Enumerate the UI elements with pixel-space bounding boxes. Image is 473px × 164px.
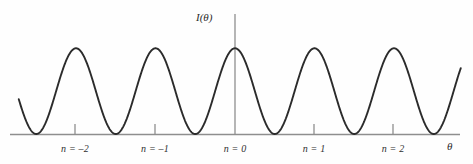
diffraction-intensity-figure: I(θ) θ n = –2 n = –1 n = 0 n = 1 n = 2 xyxy=(0,0,473,164)
intensity-curve xyxy=(19,48,461,134)
tick-label-n-minus-1: n = –1 xyxy=(141,143,169,154)
tick-label-n-1: n = 1 xyxy=(303,143,326,154)
y-axis-label: I(θ) xyxy=(196,11,212,23)
tick-label-n-2: n = 2 xyxy=(382,143,405,154)
x-axis-label: θ xyxy=(447,140,452,152)
plot-canvas xyxy=(0,0,473,164)
tick-label-n-0: n = 0 xyxy=(224,143,247,154)
tick-label-n-minus-2: n = –2 xyxy=(61,143,89,154)
